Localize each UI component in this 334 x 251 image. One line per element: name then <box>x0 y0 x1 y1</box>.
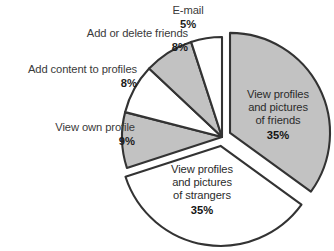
pie-label-view-own-profile-name: View own profile <box>2 121 135 134</box>
pie-label-strangers-line-2: and pictures <box>150 176 254 189</box>
pie-label-email-name: E-mail <box>128 4 248 17</box>
pie-label-add-content-to-profiles-percent: 8% <box>2 77 137 90</box>
pie-label-friends-line-1: View profiles <box>232 88 324 101</box>
pie-label-friends-percent: 35% <box>232 129 324 142</box>
pie-label-strangers-line-3: of strangers <box>150 189 254 202</box>
pie-label-add-or-delete-friends-name: Add or delete friends <box>18 27 188 40</box>
pie-label-add-content-to-profiles-name: Add content to profiles <box>2 63 137 76</box>
pie-label-view-own-profile-percent: 9% <box>2 135 135 148</box>
pie-label-add-or-delete-friends-percent: 8% <box>18 41 188 54</box>
pie-label-friends-line-2: and pictures <box>232 101 324 114</box>
pie-label-add-content-to-profiles: Add content to profiles 8% <box>2 63 137 89</box>
pie-chart: E-mail 5% Add or delete friends 8% Add c… <box>0 0 334 251</box>
pie-label-strangers-percent: 35% <box>150 204 254 217</box>
pie-label-friends-line-3: of friends <box>232 114 324 127</box>
pie-label-strangers: View profiles and pictures of strangers … <box>150 163 254 217</box>
pie-label-view-own-profile: View own profile 9% <box>2 121 135 147</box>
pie-label-strangers-line-1: View profiles <box>150 163 254 176</box>
pie-label-add-or-delete-friends: Add or delete friends 8% <box>18 27 188 53</box>
pie-label-friends: View profiles and pictures of friends 35… <box>232 88 324 142</box>
